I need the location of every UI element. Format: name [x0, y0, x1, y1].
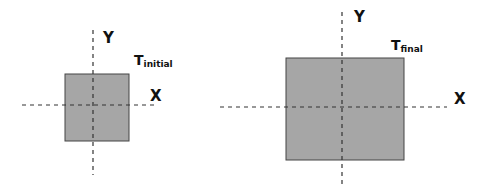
- final-t-sub: final: [401, 44, 423, 54]
- final-x-label: X: [454, 92, 466, 107]
- final-rectangle: [286, 58, 404, 160]
- final-y-label: Y: [354, 10, 365, 25]
- initial-square: [65, 74, 129, 141]
- final-t-label: Tfinal: [391, 38, 423, 54]
- initial-t-sub: initial: [144, 59, 173, 69]
- initial-y-label: Y: [103, 31, 114, 46]
- initial-t-main: T: [134, 52, 144, 68]
- final-t-main: T: [391, 37, 401, 53]
- initial-t-label: Tinitial: [134, 53, 173, 69]
- initial-x-label: X: [150, 89, 162, 104]
- diagram-canvas: [0, 0, 482, 196]
